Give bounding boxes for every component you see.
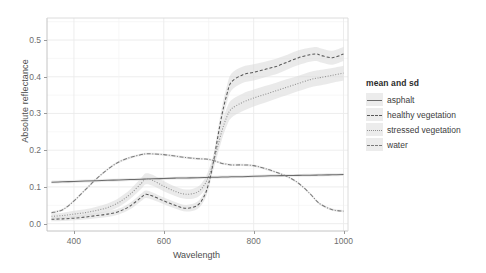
spectral-reflectance-chart: Absolute reflectance Wavelength 0.00.10.… <box>0 0 486 273</box>
x-tick-mark <box>164 231 165 234</box>
legend-item-label: asphalt <box>387 95 414 105</box>
legend-item-water[interactable]: water <box>366 137 484 152</box>
legend-item-asphalt[interactable]: asphalt <box>366 92 484 107</box>
x-axis-label: Wavelength <box>45 250 348 260</box>
x-tick-mark <box>344 231 345 234</box>
legend-key-icon <box>366 123 383 136</box>
legend: mean and sd asphalthealthy vegetationstr… <box>366 78 484 152</box>
legend-item-stressed-vegetation[interactable]: stressed vegetation <box>366 122 484 137</box>
y-tick-label: 0.1 <box>7 182 41 192</box>
y-tick-label: 0.2 <box>7 145 41 155</box>
y-tick-mark <box>44 150 47 151</box>
legend-item-label: healthy vegetation <box>387 110 456 120</box>
legend-items: asphalthealthy vegetationstressed vegeta… <box>366 92 484 152</box>
x-tick-mark <box>74 231 75 234</box>
y-tick-mark <box>44 224 47 225</box>
y-tick-label: 0.4 <box>7 72 41 82</box>
x-tick-label: 1000 <box>324 236 364 246</box>
x-tick-label: 400 <box>54 236 94 246</box>
x-tick-mark <box>254 231 255 234</box>
y-tick-label: 0.0 <box>7 219 41 229</box>
legend-item-healthy-vegetation[interactable]: healthy vegetation <box>366 107 484 122</box>
y-tick-mark <box>44 113 47 114</box>
y-tick-mark <box>44 187 47 188</box>
x-tick-label: 800 <box>234 236 274 246</box>
x-tick-label: 600 <box>144 236 184 246</box>
legend-title: mean and sd <box>366 78 484 88</box>
y-tick-mark <box>44 40 47 41</box>
legend-item-label: water <box>387 140 408 150</box>
legend-key-icon <box>366 93 383 106</box>
legend-key-icon <box>366 108 383 121</box>
legend-item-label: stressed vegetation <box>387 125 461 135</box>
y-tick-label: 0.5 <box>7 35 41 45</box>
y-tick-label: 0.3 <box>7 108 41 118</box>
y-tick-mark <box>44 77 47 78</box>
legend-key-icon <box>366 138 383 151</box>
